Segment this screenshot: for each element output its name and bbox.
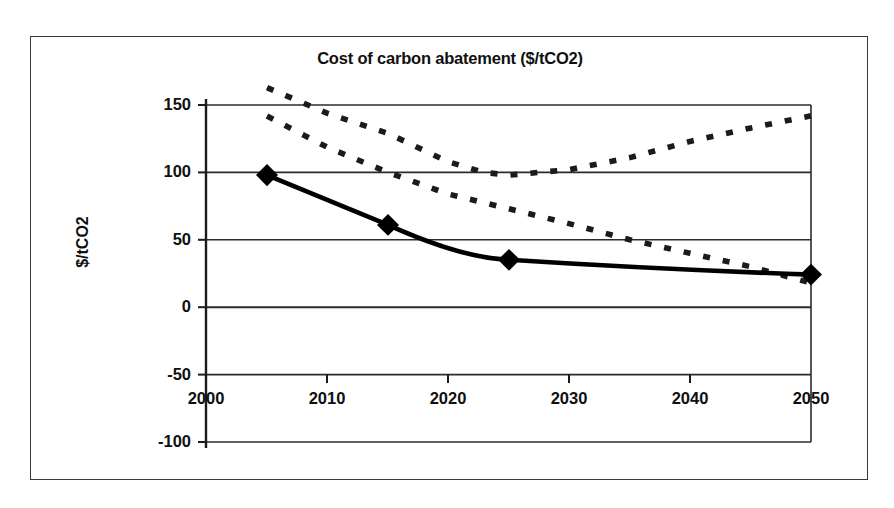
y-tick-0: 0 (131, 297, 191, 316)
x-tick-2030: 2030 (534, 389, 604, 408)
x-tick-2040: 2040 (655, 389, 725, 408)
series-upper-bound (267, 88, 811, 176)
x-tick-2000: 2000 (171, 389, 241, 408)
y-tick-100: 100 (131, 162, 191, 181)
data-point-marker (256, 164, 278, 186)
series-lower-bound (267, 116, 811, 283)
data-point-marker (377, 214, 399, 236)
series-central-estimate (256, 164, 822, 286)
data-point-marker (498, 249, 520, 271)
chart-figure-frame: Cost of carbon abatement ($/tCO2) $/tCO2 (30, 36, 868, 480)
x-tick-2020: 2020 (413, 389, 483, 408)
y-tick-50: 50 (131, 230, 191, 249)
x-tick-2010: 2010 (292, 389, 362, 408)
y-tick-150: 150 (131, 95, 191, 114)
x-axis-ticks (327, 375, 690, 383)
x-tick-2050: 2050 (776, 389, 846, 408)
y-tick-neg50: -50 (131, 365, 191, 384)
y-tick-neg100: -100 (131, 432, 191, 451)
